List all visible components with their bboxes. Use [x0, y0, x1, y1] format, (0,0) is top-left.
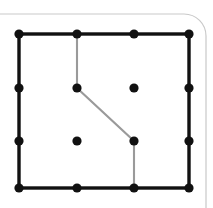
grid-dot-bl — [14, 183, 23, 192]
grid-dot-br — [184, 183, 193, 192]
grid-dot-b2 — [72, 183, 81, 192]
grid-dot-t3 — [129, 29, 138, 38]
grid-dot-l2 — [14, 83, 23, 92]
grid-dot-m32 — [72, 136, 81, 145]
grid-dot-r3 — [184, 136, 193, 145]
grid-dot-tl — [14, 29, 23, 38]
grid-dot-l3 — [14, 136, 23, 145]
grid-dot-m33 — [129, 136, 138, 145]
grid-dot-r2 — [184, 83, 193, 92]
figure-canvas — [0, 0, 213, 208]
grid-dot-tr — [184, 29, 193, 38]
grid-dot-m23 — [129, 83, 138, 92]
grid-polyline-figure — [0, 0, 213, 208]
grid-dot-b3 — [129, 183, 138, 192]
grid-dot-m22 — [72, 83, 81, 92]
figure-background — [0, 0, 213, 208]
grid-dot-t2 — [72, 29, 81, 38]
